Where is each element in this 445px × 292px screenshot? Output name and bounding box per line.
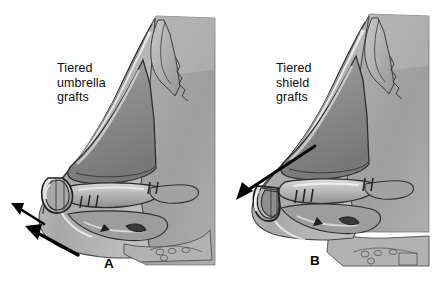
panel-b: Tiered shield grafts B [223,0,445,292]
graft-label-b: Tiered shield grafts [276,61,312,105]
tiered-shield-grafts-b [253,186,280,221]
panel-b-illustration [223,0,445,292]
panel-a-illustration [0,0,222,292]
panel-a: Tiered umbrella grafts A [0,0,222,292]
figure-root: Tiered umbrella grafts A [0,0,445,292]
tiered-umbrella-grafts-a [42,178,73,213]
graft-label-a: Tiered umbrella grafts [57,61,106,105]
panel-letter-b: B [310,253,320,268]
panel-letter-a: A [104,256,114,271]
